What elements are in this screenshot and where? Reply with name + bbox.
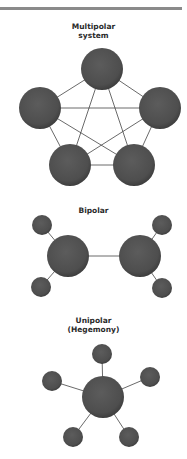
unipolar-satellite	[42, 371, 62, 391]
multipolar-node-top	[81, 48, 123, 90]
unipolar-satellite	[140, 367, 160, 387]
unipolar-satellite	[63, 427, 83, 447]
multipolar-node-right	[139, 87, 181, 129]
unipolar-satellite	[92, 344, 112, 364]
bipolar-pole-left	[47, 235, 89, 277]
bipolar-satellite	[152, 278, 172, 298]
polarity-diagrams	[0, 0, 187, 459]
multipolar-node-bottom-left	[49, 144, 91, 186]
unipolar-satellite	[119, 427, 139, 447]
bipolar-satellite	[152, 215, 172, 235]
multipolar-node-left	[19, 87, 61, 129]
multipolar-node-bottom-right	[113, 144, 155, 186]
unipolar-hegemon	[82, 376, 124, 418]
bipolar-satellite	[32, 215, 52, 235]
bipolar-satellite	[31, 277, 51, 297]
bipolar-pole-right	[119, 235, 161, 277]
